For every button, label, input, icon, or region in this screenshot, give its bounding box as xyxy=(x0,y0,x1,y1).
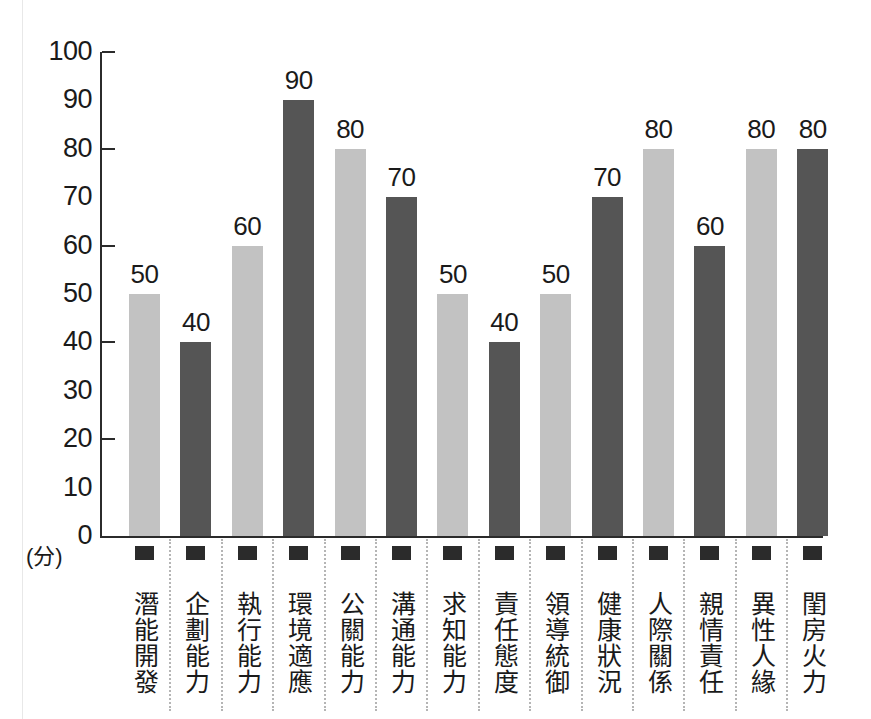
bar-value-label: 80 xyxy=(322,116,379,142)
y-axis-tick-mark xyxy=(102,51,115,53)
y-axis-tick-label-text: 20 xyxy=(20,425,92,452)
category-item: 求知能力 xyxy=(428,546,477,718)
x-axis-line xyxy=(100,536,823,538)
y-axis-tick-label-text: 100 xyxy=(20,38,92,65)
bar xyxy=(797,149,828,536)
bar xyxy=(694,246,725,536)
bar-value-label: 60 xyxy=(681,213,738,239)
category-item: 企劃能力 xyxy=(171,546,220,718)
y-axis-tick-label-text: 40 xyxy=(20,328,92,355)
y-axis-tick-label: 40 xyxy=(10,328,92,355)
bar xyxy=(592,197,623,536)
y-axis-tick-label-text: 10 xyxy=(20,474,92,501)
y-axis-tick-label: 60 xyxy=(10,232,92,259)
category-label: 閨房火力 xyxy=(799,568,826,718)
y-axis-tick-label: 50 xyxy=(10,280,92,307)
category-label: 潛能開發 xyxy=(131,568,158,718)
bar xyxy=(746,149,777,536)
category-label: 企劃能力 xyxy=(182,568,209,718)
bar-value-label: 40 xyxy=(167,309,224,335)
bar-value-label: 40 xyxy=(476,309,533,335)
category-marker-icon xyxy=(238,546,257,560)
category-label: 溝通能力 xyxy=(388,568,415,718)
bar-chart: 1009080706050403020100 (分) 5040609080705… xyxy=(0,0,871,719)
category-marker-icon xyxy=(443,546,462,560)
category-item: 親情責任 xyxy=(685,546,734,718)
category-marker-icon xyxy=(289,546,308,560)
category-label: 責任態度 xyxy=(491,568,518,718)
bar-value-label: 50 xyxy=(424,261,481,287)
category-label: 公關能力 xyxy=(337,568,364,718)
category-label: 人際關係 xyxy=(645,568,672,718)
y-axis-tick-label-text: 70 xyxy=(20,183,92,210)
y-axis-tick-label: 10 xyxy=(10,474,92,501)
bar xyxy=(437,294,468,536)
bar xyxy=(386,197,417,536)
category-marker-icon xyxy=(649,546,668,560)
category-marker-icon xyxy=(752,546,771,560)
y-axis-tick-label: 100 xyxy=(10,38,92,65)
category-item: 人際關係 xyxy=(634,546,683,718)
y-axis-tick-mark xyxy=(102,438,115,440)
bar-value-label: 80 xyxy=(733,116,790,142)
category-label: 環境適應 xyxy=(285,568,312,718)
category-item: 潛能開發 xyxy=(120,546,169,718)
category-item: 環境適應 xyxy=(274,546,323,718)
category-item: 責任態度 xyxy=(480,546,529,718)
bar-value-label: 70 xyxy=(579,164,636,190)
category-item: 領導統御 xyxy=(531,546,580,718)
bar-value-label: 60 xyxy=(219,213,276,239)
y-axis-tick-label: 20 xyxy=(10,425,92,452)
bar-value-label: 70 xyxy=(373,164,430,190)
category-marker-icon xyxy=(341,546,360,560)
category-item: 閨房火力 xyxy=(788,546,837,718)
bar xyxy=(335,149,366,536)
bar xyxy=(283,100,314,536)
bar-value-label: 80 xyxy=(630,116,687,142)
category-marker-icon xyxy=(546,546,565,560)
y-axis-tick-mark xyxy=(102,148,115,150)
chart-page: 1009080706050403020100 (分) 5040609080705… xyxy=(0,0,871,719)
category-label: 求知能力 xyxy=(439,568,466,718)
category-marker-icon xyxy=(186,546,205,560)
y-axis-tick-label-text: 80 xyxy=(20,135,92,162)
bar-value-label: 50 xyxy=(527,261,584,287)
y-axis-tick-label: 80 xyxy=(10,135,92,162)
category-marker-icon xyxy=(495,546,514,560)
y-axis-tick-label-text: 60 xyxy=(20,232,92,259)
category-marker-icon xyxy=(392,546,411,560)
category-label: 領導統御 xyxy=(542,568,569,718)
y-axis-tick-label: 30 xyxy=(10,377,92,404)
category-item: 溝通能力 xyxy=(377,546,426,718)
category-label: 健康狀況 xyxy=(594,568,621,718)
category-item: 執行能力 xyxy=(223,546,272,718)
category-item: 公關能力 xyxy=(326,546,375,718)
bar-value-label: 80 xyxy=(784,116,841,142)
bar xyxy=(232,246,263,536)
category-item: 異性人緣 xyxy=(737,546,786,718)
bar-value-label: 50 xyxy=(116,261,173,287)
category-marker-icon xyxy=(803,546,822,560)
category-label: 親情責任 xyxy=(696,568,723,718)
bar xyxy=(180,342,211,536)
y-axis-tick-label-text: 50 xyxy=(20,280,92,307)
category-label: 異性人緣 xyxy=(748,568,775,718)
category-marker-icon xyxy=(135,546,154,560)
y-axis-unit-label: (分) xyxy=(26,545,63,569)
bar-value-label: 90 xyxy=(270,67,327,93)
category-marker-icon xyxy=(700,546,719,560)
bar xyxy=(643,149,674,536)
y-axis-tick-mark xyxy=(102,245,115,247)
bar xyxy=(540,294,571,536)
y-axis-tick-label: 90 xyxy=(10,86,92,113)
bar xyxy=(489,342,520,536)
category-marker-icon xyxy=(598,546,617,560)
category-item: 健康狀況 xyxy=(583,546,632,718)
y-axis-line xyxy=(100,52,102,537)
y-axis-tick-label-text: 30 xyxy=(20,377,92,404)
y-axis-tick-label-text: 90 xyxy=(20,86,92,113)
bar xyxy=(129,294,160,536)
category-label: 執行能力 xyxy=(234,568,261,718)
y-axis-tick-mark xyxy=(102,341,115,343)
y-axis-tick-label: 70 xyxy=(10,183,92,210)
